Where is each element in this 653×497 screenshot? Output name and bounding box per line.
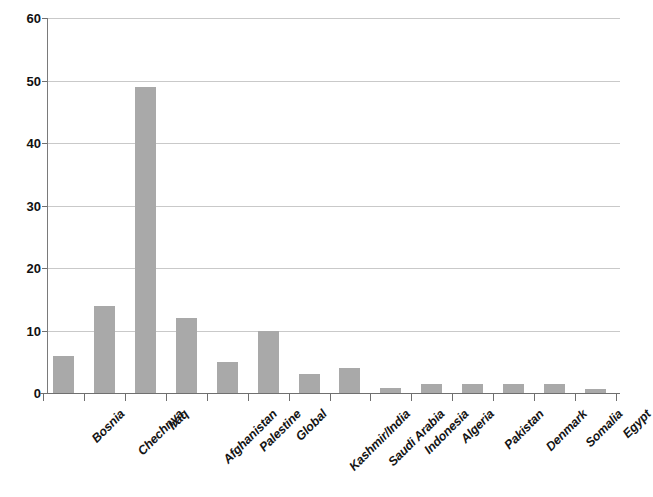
bar-palestine [217, 362, 238, 393]
bar-somalia [544, 384, 565, 393]
bar-iraq [135, 87, 156, 393]
bar-saudi-arabia [339, 368, 360, 393]
x-label-egypt: Egypt [619, 407, 653, 441]
y-tick-label-50: 50 [7, 74, 41, 87]
x-axis-category-labels: BosniaChechnyaIraqAfghanistanPalestineGl… [0, 393, 627, 497]
bar-chechnya [94, 306, 115, 394]
bar-pakistan [462, 384, 483, 393]
bar-algeria [421, 384, 442, 393]
y-tick-label-40: 40 [7, 137, 41, 150]
bar-afghanistan [176, 318, 197, 393]
x-label-bosnia: Bosnia [89, 407, 128, 446]
bar-bosnia [53, 356, 74, 394]
y-tick-label-60: 60 [7, 12, 41, 25]
x-label-somalia: Somalia [582, 407, 625, 450]
bar-global [258, 331, 279, 394]
y-tick-label-30: 30 [7, 199, 41, 212]
bar-kashmir-india [299, 374, 320, 393]
x-label-pakistan: Pakistan [501, 407, 546, 452]
x-label-denmark: Denmark [543, 407, 590, 454]
y-tick-label-10: 10 [7, 324, 41, 337]
bars-layer [47, 18, 620, 393]
y-tick-label-20: 20 [7, 262, 41, 275]
bar-denmark [503, 384, 524, 393]
